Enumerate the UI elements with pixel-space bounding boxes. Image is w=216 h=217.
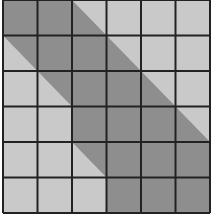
grid-figure [0, 0, 216, 217]
grid-graphic [0, 0, 216, 217]
